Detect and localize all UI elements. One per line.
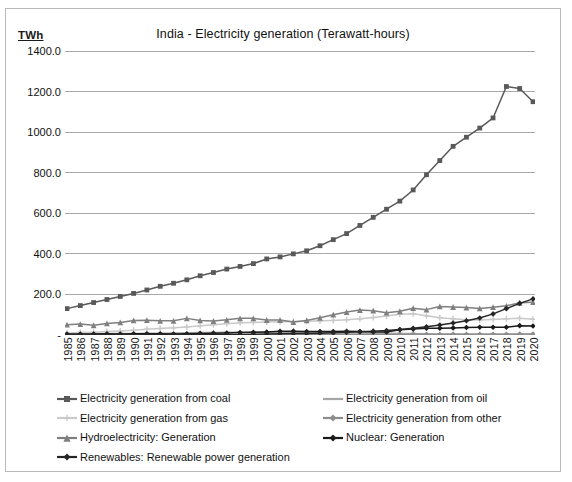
y-axis-tick-labels: 1400.01200.01000.0800.0600.0400.0200.0-: [12, 51, 61, 335]
x-axis-tick-label: 2017: [488, 337, 500, 362]
legend-item[interactable]: Hydroelectricity: Generation: [56, 428, 316, 448]
y-axis-tick-label: 200.0: [33, 288, 61, 300]
x-axis-tick-label: 1985: [62, 337, 74, 362]
data-point-marker: [184, 324, 190, 330]
data-point-marker: [78, 303, 83, 308]
data-point-marker: [504, 331, 510, 335]
legend-label: Hydroelectricity: Generation: [80, 432, 216, 443]
legend-label: Renewables: Renewable power generation: [80, 452, 290, 463]
legend-swatch: [322, 432, 344, 444]
data-point-marker: [357, 316, 363, 322]
legend-item[interactable]: Nuclear: Generation: [322, 428, 562, 448]
legend-marker-icon: [322, 412, 344, 424]
data-point-marker: [211, 270, 216, 275]
legend-marker-icon: [322, 432, 344, 444]
data-point-marker: [451, 144, 456, 149]
data-point-marker: [105, 297, 110, 302]
series-line: [67, 87, 533, 309]
chart-legend: Electricity generation from coalElectric…: [22, 389, 552, 467]
legend-label: Electricity generation from other: [346, 413, 501, 424]
data-point-marker: [344, 317, 350, 323]
data-point-marker: [490, 324, 496, 330]
legend-item[interactable]: Renewables: Renewable power generation: [56, 448, 316, 468]
data-point-marker: [531, 99, 535, 104]
legend-marker-icon: [56, 432, 78, 444]
data-point-marker: [171, 281, 176, 286]
data-point-marker: [517, 323, 523, 329]
y-axis-tick-label: 400.0: [33, 248, 61, 260]
legend-swatch: [56, 393, 78, 405]
data-point-marker: [423, 313, 429, 319]
data-point-marker: [477, 331, 483, 335]
data-point-marker: [264, 257, 269, 262]
chart-frame: TWh India - Electricity generation (Tera…: [5, 8, 561, 472]
data-point-marker: [437, 322, 443, 328]
data-point-marker: [477, 126, 482, 131]
legend-marker-icon: [56, 393, 78, 405]
data-point-marker: [411, 188, 416, 193]
data-point-marker: [291, 251, 296, 256]
data-point-marker: [144, 288, 149, 293]
data-point-marker: [331, 237, 336, 242]
x-axis-tick-label: 2003: [302, 337, 314, 362]
data-point-marker: [410, 326, 416, 332]
data-point-marker: [384, 207, 389, 212]
data-point-marker: [64, 396, 70, 402]
data-point-marker: [64, 454, 71, 461]
data-point-marker: [490, 316, 496, 322]
x-axis-tick-label: 2013: [435, 337, 447, 362]
data-point-marker: [437, 158, 442, 163]
legend-label: Nuclear: Generation: [346, 432, 444, 443]
data-point-marker: [437, 315, 443, 321]
legend-marker-icon: [56, 412, 78, 424]
legend-swatch: [56, 412, 78, 424]
data-point-marker: [410, 311, 416, 317]
legend-item[interactable]: Electricity generation from oil: [322, 389, 562, 409]
data-point-marker: [490, 311, 496, 317]
x-axis-tick-label: 2008: [368, 337, 380, 362]
x-axis-tick-label: 2015: [461, 337, 473, 362]
data-point-marker: [158, 284, 163, 289]
data-point-marker: [477, 324, 483, 330]
x-axis-tick-label: 1986: [75, 337, 87, 362]
legend-label: Electricity generation from coal: [80, 393, 230, 404]
legend-item[interactable]: Electricity generation from coal: [56, 389, 316, 409]
data-point-marker: [131, 291, 136, 296]
x-axis-tick-label: 2009: [382, 337, 394, 362]
data-point-marker: [224, 267, 229, 272]
x-axis-tick-label: 2019: [515, 337, 527, 362]
data-point-marker: [530, 316, 535, 322]
data-point-marker: [91, 300, 96, 305]
y-axis-tick-label: 1000.0: [27, 126, 61, 138]
data-point-marker: [171, 325, 177, 331]
data-point-marker: [358, 223, 363, 228]
x-axis-tick-label: 2004: [315, 337, 327, 362]
x-axis-tick-label: 1991: [142, 337, 154, 362]
x-axis-tick-label: 2016: [475, 337, 487, 362]
data-point-marker: [424, 172, 429, 177]
data-point-marker: [504, 84, 509, 89]
legend-item[interactable]: Electricity generation from other: [322, 409, 562, 429]
data-point-marker: [65, 306, 69, 311]
x-axis-tick-label: 2000: [262, 337, 274, 362]
chart-plot-svg: [65, 51, 535, 335]
data-point-marker: [330, 434, 337, 441]
x-axis-tick-label: 1994: [182, 337, 194, 362]
legend-label: Electricity generation from oil: [346, 393, 487, 404]
x-axis-tick-label: 2011: [408, 337, 420, 361]
legend-swatch: [322, 412, 344, 424]
x-axis-tick-label: 1999: [248, 337, 260, 362]
x-axis-tick-label: 1987: [89, 337, 101, 362]
data-point-marker: [64, 415, 70, 421]
x-axis-tick-label: 1992: [155, 337, 167, 362]
series-hydroelectricity-generation: [65, 299, 535, 328]
legend-marker-icon: [56, 451, 78, 463]
x-axis-tick-label: 1997: [222, 337, 234, 362]
legend-item[interactable]: Electricity generation from gas: [56, 409, 316, 429]
legend-column-left: Electricity generation from coalElectric…: [56, 389, 316, 467]
data-point-marker: [530, 296, 535, 302]
x-axis-tick-label: 1995: [195, 337, 207, 362]
data-point-marker: [464, 318, 470, 324]
data-point-marker: [118, 294, 123, 299]
data-point-marker: [450, 320, 456, 326]
